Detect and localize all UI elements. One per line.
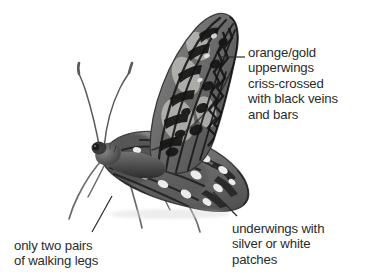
annotation-upperwings-line-2: upperwings [248,60,338,75]
annotation-underwings-line-3: patches [232,252,324,267]
annotation-upperwings-line-4: with black veins [248,91,338,106]
annotation-upperwings: orange/gold upperwings criss-crossed wit… [248,45,338,122]
annotation-upperwings-line-3: criss-crossed [248,76,338,91]
annotation-legs: only two pairs of walking legs [14,238,98,269]
forewing-upperside [150,13,238,173]
annotation-underwings: underwings with silver or white patches [232,221,324,267]
annotation-underwings-line-2: silver or white [232,236,324,251]
annotation-upperwings-line-1: orange/gold [248,45,338,60]
shadow [110,209,230,219]
annotation-underwings-line-1: underwings with [232,221,324,236]
annotation-upperwings-line-5: and bars [248,107,338,122]
figure-canvas: orange/gold upperwings criss-crossed wit… [0,0,371,279]
annotation-legs-line-2: of walking legs [14,253,98,268]
annotation-legs-line-1: only two pairs [14,238,98,253]
